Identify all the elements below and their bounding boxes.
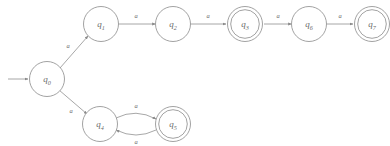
transition-q0-to-q4[interactable]: a [59, 90, 87, 114]
transition-label: a [134, 138, 137, 145]
state-label-subscript: 5 [174, 123, 177, 130]
transition-label: a [69, 107, 72, 114]
transition-q1-to-q2[interactable]: a [119, 12, 156, 25]
transition-arrow-icon [59, 90, 87, 114]
transition-q5-to-q4[interactable]: a [116, 130, 156, 145]
transition-q4-to-q5[interactable]: a [116, 102, 156, 120]
state-q3[interactable]: q3 [228, 7, 263, 42]
transition-q0-to-q1[interactable]: a [60, 36, 88, 68]
state-q1[interactable]: q1 [84, 7, 119, 42]
transition-arrow-icon [60, 36, 88, 68]
transition-q2-to-q3[interactable]: a [191, 12, 227, 25]
state-q4[interactable]: q4 [83, 107, 118, 142]
transition-label: a [134, 102, 137, 109]
transition-arc-icon [116, 130, 156, 135]
state-q6[interactable]: q6 [292, 7, 327, 42]
transition-arc-icon [116, 113, 156, 119]
transition-label: a [134, 12, 137, 19]
transition-q6-to-q7[interactable]: a [327, 12, 354, 25]
transition-label: a [276, 12, 279, 19]
state-label-subscript: 4 [101, 123, 104, 130]
state-q5[interactable]: q5 [156, 107, 191, 142]
automaton-svg: aaaaaaaa q0q1q2q3q6q7q4q5 [0, 0, 390, 146]
state-q0[interactable]: q0 [30, 62, 65, 97]
automaton-diagram-canvas: aaaaaaaa q0q1q2q3q6q7q4q5 [0, 0, 390, 146]
transition-label: a [206, 12, 209, 19]
states-layer: q0q1q2q3q6q7q4q5 [30, 7, 390, 142]
transition-label: a [338, 12, 341, 19]
state-q2[interactable]: q2 [156, 7, 191, 42]
state-label-subscript: 3 [245, 23, 249, 30]
state-label-subscript: 1 [102, 23, 105, 30]
state-label-subscript: 2 [174, 23, 177, 30]
state-q7[interactable]: q7 [355, 7, 390, 42]
transition-q3-to-q6[interactable]: a [264, 12, 292, 25]
transition-label: a [66, 42, 69, 49]
